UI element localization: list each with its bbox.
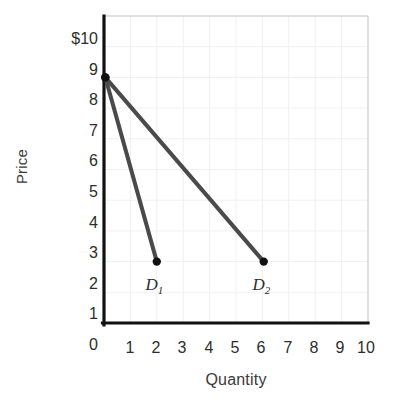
gridlines bbox=[104, 16, 368, 323]
axis-lines bbox=[103, 16, 369, 325]
x-tick-label: 7 bbox=[276, 340, 300, 356]
curve-label-d1-subscript: 1 bbox=[158, 284, 164, 296]
curve-label-d2-subscript: 2 bbox=[265, 284, 271, 296]
x-tick-label: 10 bbox=[354, 340, 378, 356]
x-tick-label: 2 bbox=[144, 340, 168, 356]
demand-curve-chart: Price $10 9 8 7 6 5 4 3 2 1 0 1 2 3 4 5 … bbox=[0, 0, 402, 420]
curve-label-d2-text: D bbox=[252, 275, 264, 294]
curve-label-d1-text: D bbox=[145, 275, 157, 294]
x-axis-title: Quantity bbox=[104, 371, 368, 389]
x-tick-label: 3 bbox=[170, 340, 194, 356]
curve-label-d2: D2 bbox=[252, 275, 270, 296]
x-tick-label: 5 bbox=[223, 340, 247, 356]
plot-area bbox=[0, 0, 402, 420]
curve-label-d1: D1 bbox=[145, 275, 163, 296]
x-tick-label: 8 bbox=[302, 340, 326, 356]
x-tick-label: 6 bbox=[249, 340, 273, 356]
x-tick-label: 9 bbox=[328, 340, 352, 356]
x-tick-label: 4 bbox=[197, 340, 221, 356]
x-tick-label: 1 bbox=[118, 340, 142, 356]
